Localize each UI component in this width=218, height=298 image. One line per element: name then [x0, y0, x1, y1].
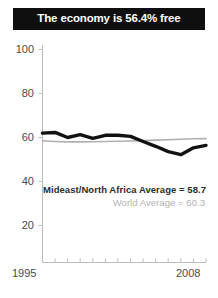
y-axis-ticks: [39, 50, 43, 226]
series-line-mideast-north-africa: [43, 132, 207, 154]
y-tick-label-40: 40: [4, 176, 34, 187]
y-tick-label-60: 60: [4, 132, 34, 143]
y-tick-label-20: 20: [4, 220, 34, 231]
x-tick-label-end: 2008: [176, 268, 200, 279]
y-tick-label-100: 100: [4, 44, 34, 55]
series-line-world-average: [43, 139, 207, 142]
x-tick-label-start: 1995: [12, 268, 36, 279]
x-axis-ticks: [43, 259, 207, 263]
legend-mideast-average: Mideast/North Africa Average = 58.7: [43, 185, 205, 195]
economy-freedom-chart-card: The economy is 56.4% free: [0, 0, 218, 298]
legend-world-average: World Average = 60.3: [43, 198, 205, 208]
y-tick-label-80: 80: [4, 88, 34, 99]
